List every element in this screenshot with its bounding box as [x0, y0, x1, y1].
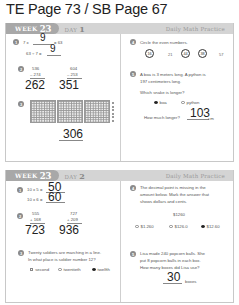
- option-126-0[interactable]: $126.0: [169, 224, 188, 229]
- question-number-5: 5: [130, 71, 136, 77]
- question-number-5: 5: [130, 251, 136, 257]
- option-1-260[interactable]: $1.260: [135, 224, 154, 229]
- radio-selected-icon: [92, 268, 96, 272]
- hundreds-block: [30, 100, 56, 123]
- answer-line: [163, 283, 182, 284]
- even-number-circled[interactable]: 44: [181, 49, 190, 58]
- question-number-2: 2: [17, 213, 23, 219]
- day-label: DAY2: [65, 171, 86, 181]
- q1-text: 7 x: [23, 40, 29, 45]
- q2-answer-b: 936: [59, 223, 79, 237]
- hundreds-block: [84, 100, 110, 123]
- answer-line: [46, 202, 65, 203]
- page-title: TE Page 73 / SB Page 67: [6, 1, 167, 17]
- question-number-2: 2: [18, 66, 24, 72]
- column-divider: [120, 181, 121, 302]
- option-12-60[interactable]: $12.60: [201, 224, 220, 229]
- ones-cube: [112, 109, 114, 111]
- amount: $1260: [173, 212, 185, 217]
- even-number-circled[interactable]: 38: [198, 49, 207, 58]
- answer-line: [59, 140, 83, 141]
- option-boa[interactable]: boa: [154, 100, 167, 105]
- band-title: Daily Math Practice: [166, 26, 225, 32]
- question-number-4: 4: [130, 39, 136, 45]
- ones-cube: [112, 106, 114, 108]
- radio-selected-icon: [201, 225, 205, 229]
- odd-number[interactable]: 21: [168, 52, 172, 57]
- even-number-circled[interactable]: 16: [145, 49, 154, 58]
- radio-empty-icon: [58, 268, 62, 272]
- q2-answer-a: 723: [25, 223, 45, 237]
- week-badge: WEEK23: [6, 23, 59, 34]
- option-twentieth[interactable]: twentieth: [58, 267, 81, 272]
- answer-line: [187, 119, 209, 120]
- q5-answer: 30: [167, 270, 180, 284]
- radio-empty-icon: [135, 225, 139, 229]
- odd-number[interactable]: 57: [219, 52, 223, 57]
- option-second[interactable]: second: [30, 267, 49, 272]
- question-number-4: 4: [130, 185, 136, 191]
- question-number-3: 3: [18, 250, 24, 256]
- question-number-1: 1: [13, 39, 19, 45]
- option-python[interactable]: python: [181, 100, 199, 105]
- day2-header-band: WEEK23 DAY2 Daily Math Practice: [6, 170, 233, 181]
- ones-cube: [112, 120, 114, 122]
- q1-answer-1: 9: [40, 32, 46, 43]
- radio-empty-icon: [169, 225, 173, 229]
- radio-empty-icon: [181, 101, 185, 105]
- radio-selected-icon: [154, 101, 158, 105]
- day1-card: WEEK23 DAY1 Daily Math Practice 1 7 x 9 …: [5, 23, 234, 162]
- ones-cube: [112, 113, 114, 115]
- day2-card: WEEK23 DAY2 Daily Math Practice 1 10 x 5…: [5, 170, 234, 303]
- answer-line: [47, 55, 61, 56]
- ones-cube: [112, 102, 114, 104]
- question-number-3: 3: [18, 101, 24, 107]
- q1-answer-2: 9: [50, 43, 56, 54]
- radio-empty-icon: [30, 268, 33, 271]
- column-divider: [120, 34, 121, 161]
- band-title: Daily Math Practice: [166, 173, 225, 179]
- ones-cube: [112, 116, 114, 118]
- q2-answer-a: 262: [25, 78, 45, 92]
- day-label: DAY1: [65, 24, 86, 34]
- q3-answer: 306: [63, 127, 83, 141]
- question-number-1: 1: [17, 187, 23, 193]
- q2-answer-b: 351: [59, 78, 79, 92]
- hundreds-block: [57, 100, 83, 123]
- option-twelfth[interactable]: twelfth: [92, 267, 110, 272]
